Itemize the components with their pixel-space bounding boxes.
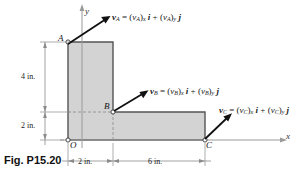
eq-a-t1-unit: i (148, 12, 151, 22)
point-label-a: A (58, 33, 64, 43)
point-label-c: C (206, 140, 212, 150)
figure-canvas (0, 0, 298, 178)
velocity-equation-c: vC = (vC)x i + (vC)y j (219, 106, 289, 115)
eq-c-equals: = (229, 105, 234, 115)
eq-b-t1-unit: i (186, 86, 189, 96)
dim-4in-arrow-bottom (43, 106, 47, 112)
eq-c-plus: + (260, 105, 265, 115)
y-axis-arrowhead (80, 4, 85, 11)
x-axis-label: x (286, 131, 290, 141)
dim-6in-arrow-left (113, 159, 119, 163)
eq-b-lhs-sub: B (154, 90, 158, 96)
velocity-vector-a-arrow (68, 19, 106, 44)
dim-2in-arrow-top (43, 112, 47, 118)
eq-c-t2-unit: j (287, 105, 290, 115)
dim-4in-arrow-top (43, 42, 47, 48)
dimension-label-4in: 4 in. (21, 72, 35, 81)
velocity-equation-b: vB = (vB)x i + (vB)y j (150, 87, 219, 96)
eq-b-plus: + (191, 86, 196, 96)
y-axis-label: y (85, 6, 89, 16)
eq-b-t1-comp: x (181, 90, 184, 96)
dim-2in-bottom-arrow-right (107, 159, 113, 163)
dim-2in-arrow-bottom (43, 134, 47, 140)
velocity-vector-b-arrow (114, 93, 144, 111)
velocity-vector-c-arrow (205, 117, 228, 139)
eq-a-t2-unit: j (179, 12, 182, 22)
eq-b-equals: = (160, 86, 165, 96)
dimension-label-2in-bottom: 2 in. (78, 157, 92, 166)
velocity-vector-a-arrowhead (101, 16, 110, 24)
dim-6in-arrow-right (199, 159, 205, 163)
eq-a-t2-comp: y (174, 16, 177, 22)
point-label-b: B (104, 101, 110, 111)
eq-c-t1-unit: i (256, 105, 259, 115)
velocity-equation-a: vA = (vA)x i + (vA)y j (112, 13, 181, 22)
dim-2in-bottom-arrow-left (68, 159, 74, 163)
eq-a-lhs-sub: A (116, 16, 120, 22)
eq-c-t1-comp: x (251, 109, 254, 115)
eq-c-t2-comp: y (282, 109, 285, 115)
dimension-label-6in: 6 in. (148, 157, 162, 166)
eq-c-lhs-sub: C (223, 109, 227, 115)
figure-caption: Fig. P15.20 (4, 154, 61, 166)
eq-b-t2-unit: j (217, 86, 220, 96)
eq-b-t2-comp: y (212, 90, 215, 96)
eq-a-t1-comp: x (143, 16, 146, 22)
eq-a-plus: + (153, 12, 158, 22)
dimension-label-2in-left: 2 in. (21, 121, 35, 130)
point-label-o: O (70, 140, 77, 150)
eq-a-equals: = (122, 12, 127, 22)
